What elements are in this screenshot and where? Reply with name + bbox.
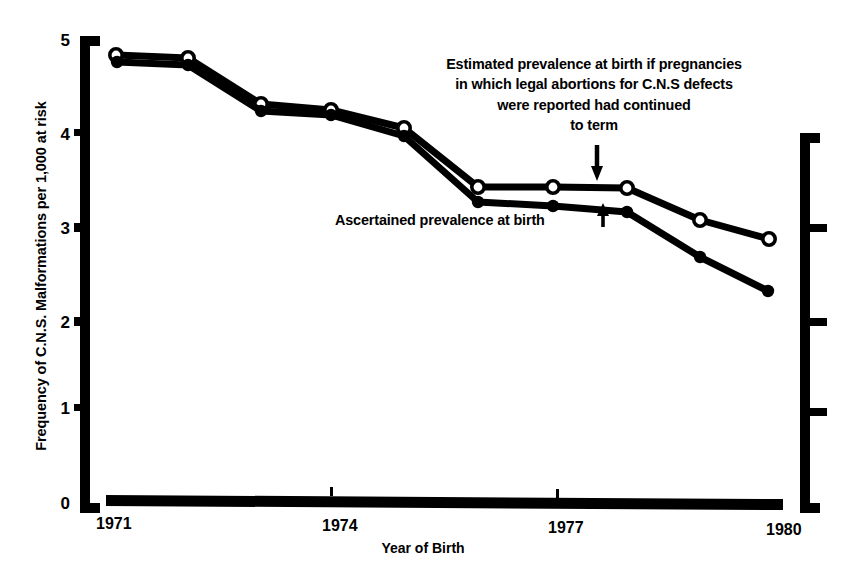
annotation-line: to term — [396, 115, 792, 135]
marker-point — [694, 251, 706, 263]
chart-figure: 5 4 3 2 1 0 1971 1974 1977 1980 Frequenc… — [0, 0, 846, 575]
annotation-arrow-down-icon — [591, 145, 603, 181]
x-tick-label-1977: 1977 — [548, 520, 584, 536]
right-tick-upper — [810, 224, 827, 232]
marker-point — [547, 181, 559, 193]
marker-point — [762, 285, 774, 297]
annotation-estimated-prevalence: Estimated prevalence at birth if pregnan… — [396, 54, 792, 136]
right-tick-middle — [810, 318, 827, 326]
annotation-line: Estimated prevalence at birth if pregnan… — [396, 54, 792, 74]
marker-point — [182, 59, 194, 71]
annotation-ascertained-prevalence: Ascertained prevalence at birth — [335, 212, 545, 228]
marker-point — [111, 56, 123, 68]
x-axis-title: Year of Birth — [0, 540, 846, 556]
y-tick-4 — [74, 129, 90, 136]
x-tick-label-1974: 1974 — [322, 518, 358, 534]
marker-point — [547, 200, 559, 212]
y-tick-1 — [74, 404, 90, 411]
x-tick-label-1980: 1980 — [766, 522, 802, 538]
y-tick-3 — [74, 223, 90, 232]
x-tick-1974 — [330, 487, 333, 496]
marker-point — [621, 206, 633, 218]
marker-point — [621, 182, 633, 194]
right-tick-lower — [810, 408, 827, 416]
x-tick-label-1971: 1971 — [96, 516, 132, 532]
marker-point — [472, 196, 484, 208]
annotation-line: were reported had continued — [396, 95, 792, 115]
y-axis-spine — [80, 36, 100, 513]
annotation-line: in which legal abortions for C.N.S defec… — [396, 74, 792, 94]
y-axis-title: Frequency of C.N.S. Malformations per 1,… — [33, 21, 49, 531]
x-axis-spine — [106, 495, 783, 510]
marker-point — [255, 105, 267, 117]
marker-point — [694, 214, 706, 226]
marker-point — [325, 109, 337, 121]
marker-point — [763, 233, 775, 245]
marker-point — [472, 181, 484, 193]
y-tick-2 — [74, 317, 90, 326]
x-tick-1977 — [556, 489, 559, 498]
